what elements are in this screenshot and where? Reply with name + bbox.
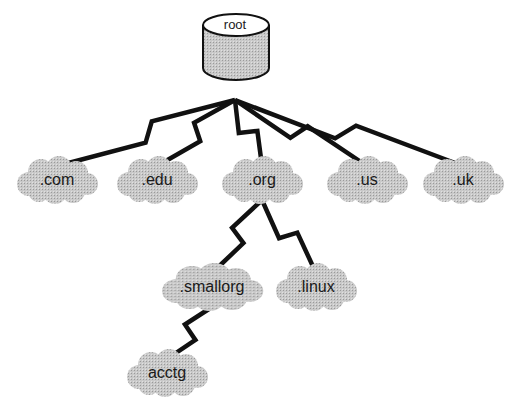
node-label-org: .org bbox=[248, 171, 276, 189]
node-label-com: .com bbox=[40, 171, 75, 189]
node-label-smallorg: .smallorg bbox=[180, 278, 245, 296]
diagram-canvas bbox=[0, 0, 520, 411]
link-root-com bbox=[57, 100, 235, 166]
node-label-uk: .uk bbox=[452, 171, 473, 189]
node-label-edu: .edu bbox=[141, 171, 172, 189]
node-label-acctg: acctg bbox=[148, 364, 186, 382]
root-label: root bbox=[224, 17, 246, 32]
clouds bbox=[17, 156, 504, 397]
node-label-us: .us bbox=[356, 171, 377, 189]
link-org-smallorg bbox=[212, 200, 262, 273]
dns-hierarchy-diagram: .com.edu.org.us.uk.smallorg.linuxacctg r… bbox=[0, 0, 520, 411]
link-org-linux bbox=[262, 200, 316, 273]
edges bbox=[57, 100, 463, 359]
node-label-linux: .linux bbox=[297, 278, 334, 296]
